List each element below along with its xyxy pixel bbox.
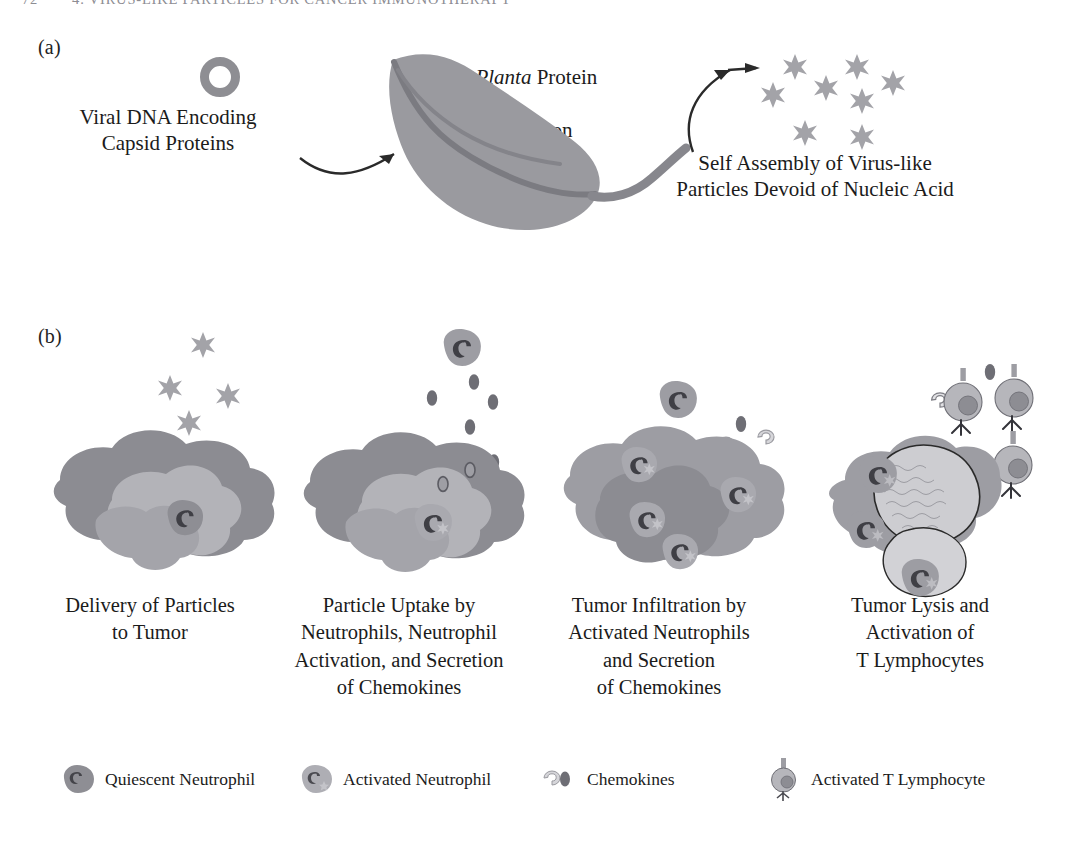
legend-label-chemokines: Chemokines [587,769,675,790]
translation-word: Translation [478,118,573,142]
chemokine-cloud [718,416,774,477]
self-assembly-label: Self Assembly of Virus-like Particles De… [600,150,1030,203]
chemokine-open [718,437,734,451]
activated-t-lymphocyte [995,364,1033,431]
legend-item-quiescent-neutrophil: Quiescent Neutrophil [58,762,255,796]
activated-neutrophil [622,447,658,482]
activated-t-lymphocyte-icon [764,762,804,796]
tumor-mass [54,430,275,570]
activated-neutrophil [721,477,757,512]
activated-neutrophil [663,534,699,569]
chemokine [489,454,499,470]
lysing-tumor-mass [829,436,1002,597]
step-3-illustration [564,381,785,569]
vlp-particle [850,124,874,150]
figure-legend: Quiescent Neutrophil Activated Neutrophi… [0,748,1076,810]
internalised-vlp [872,529,884,542]
internalised-vlp [926,577,938,590]
arrow-leaf-to-particles [689,63,760,152]
vlp-particle [881,70,905,96]
activated-neutrophil [902,559,939,596]
viral-dna-label: Viral DNA Encoding Capsid Proteins [18,104,318,157]
activated-neutrophil [848,511,885,548]
activated-neutrophil-icon [296,762,336,796]
step-2-illustration [304,329,525,572]
internalised-vlp [884,474,896,487]
vlp-particle-cluster [761,54,905,150]
step-2-caption: Particle Uptake by Neutrophils, Neutroph… [274,592,524,701]
internalised-vlp [437,522,449,535]
vlp-particle [845,54,869,80]
tumor-mass [304,432,525,572]
vlp-particle [850,88,874,114]
vlp-particle [814,75,838,101]
internalised-vlp [652,518,663,530]
step-4-caption: Tumor Lysis and Activation of T Lymphocy… [800,592,1040,674]
legend-label-activated-neutrophil: Activated Neutrophil [343,769,491,790]
activated-t-lymphocyte [994,431,1032,498]
legend-item-activated-t-lymphocyte: Activated T Lymphocyte [764,762,985,796]
chemokine [736,416,746,432]
quiescent-neutrophil-icon [58,762,98,796]
in-planta-italic: In Planta [453,65,532,89]
vlp-particle [783,54,807,80]
chemokine [469,374,479,390]
chemokine-open [744,463,760,477]
step-4-illustration [829,364,1033,596]
figure-canvas: 72 4. VIRUS-LIKE PARTICLES FOR CANCER IM… [0,0,1076,844]
chemokine-trail [427,374,499,470]
arrow-dna-to-leaf [300,154,394,173]
free-vlp-particle [177,410,201,436]
chemokine [465,463,475,478]
activated-neutrophil [444,329,481,366]
activated-neutrophil [860,456,897,493]
internalised-vlp [743,493,754,505]
activated-neutrophil [630,502,666,537]
protein-word: Protein [531,65,597,89]
panel-a-letter: (a) [38,36,61,59]
activated-t-lymphocyte [944,368,982,435]
activated-neutrophil [415,504,452,541]
chemokine-open [932,393,949,407]
panel-b-letter: (b) [38,325,62,348]
activated-neutrophil [660,381,697,418]
step-3-caption: Tumor Infiltration by Activated Neutroph… [534,592,784,701]
legend-item-activated-neutrophil: Activated Neutrophil [296,762,491,796]
running-head: 72 4. VIRUS-LIKE PARTICLES FOR CANCER IM… [0,0,1076,5]
legend-label-quiescent-neutrophil: Quiescent Neutrophil [105,769,255,790]
chemokine [465,419,475,435]
free-vlp-particle [191,332,215,358]
internalised-chemokines [438,463,475,492]
free-vlp-particle [158,375,182,401]
quiescent-neutrophil [168,500,204,535]
legend-label-activated-t-lymphocyte: Activated T Lymphocyte [811,769,985,790]
internalised-vlp [644,463,655,475]
free-vlp-particle [216,383,240,409]
running-head-title: 4. VIRUS-LIKE PARTICLES FOR CANCER IMMUN… [72,0,512,5]
chemokine-open [758,430,774,444]
chemokine [723,458,733,474]
tumor-mass [564,426,785,562]
chemokine [488,394,498,410]
chemokine [438,477,448,492]
internalised-vlp [685,550,696,562]
chemokine [427,390,437,406]
step-1-caption: Delivery of Particles to Tumor [32,592,268,647]
legend-item-chemokines: Chemokines [540,762,675,796]
dna-ring-icon [200,57,240,97]
chemokine-icon [540,762,580,796]
in-planta-translation-label: In Planta Protein Translation [400,38,650,144]
step-1-illustration [54,332,275,570]
page-number: 72 [22,0,38,5]
vlp-particle [793,120,817,146]
chemokine [985,364,995,380]
vlp-particle [761,82,785,108]
